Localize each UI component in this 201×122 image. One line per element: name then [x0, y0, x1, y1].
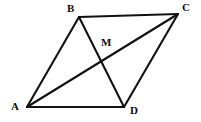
side-CD — [124, 14, 178, 107]
geometry-canvas — [0, 0, 201, 122]
diagonal-BD — [79, 17, 124, 107]
vertex-label-b: B — [67, 3, 74, 14]
vertex-label-c: C — [182, 2, 190, 13]
vertex-label-d: D — [130, 105, 138, 116]
segment-group — [27, 14, 178, 107]
vertex-label-a: A — [11, 101, 19, 112]
side-BC — [79, 14, 178, 17]
vertex-label-m: M — [101, 37, 111, 48]
geometry-figure: A B C D M — [0, 0, 201, 122]
side-AB — [27, 17, 79, 107]
diagonal-AC — [27, 14, 178, 107]
